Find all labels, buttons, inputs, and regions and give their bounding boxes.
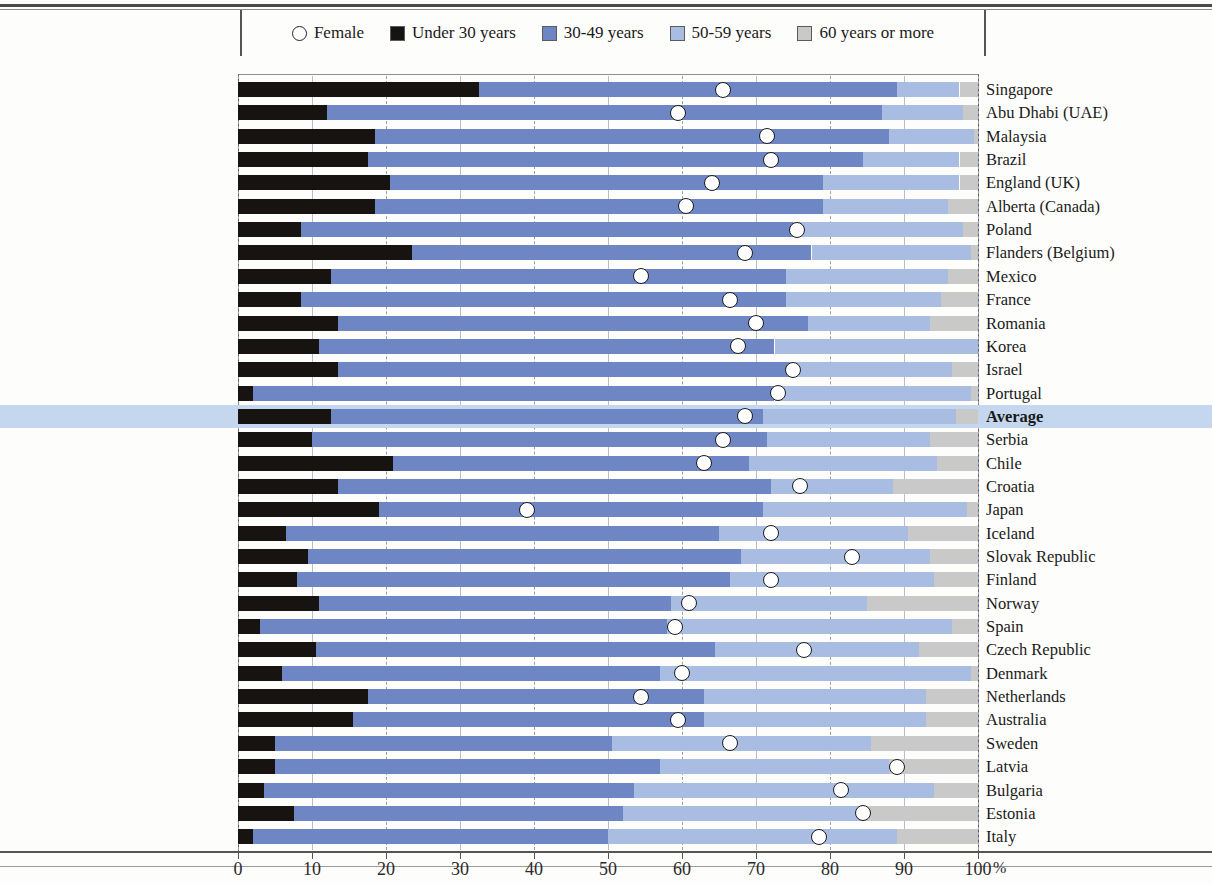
bar-segment-a60 bbox=[952, 619, 978, 634]
bar-segment-under30 bbox=[238, 339, 319, 354]
bar-segment-a3049 bbox=[253, 829, 608, 844]
row-label-right: Norway bbox=[986, 592, 1212, 615]
row-label-right: Croatia bbox=[986, 475, 1212, 498]
row-label-right: Finland bbox=[986, 568, 1212, 591]
bar-segment-under30 bbox=[238, 759, 275, 774]
row-label-right: Israel bbox=[986, 358, 1212, 381]
bar-segment-a5059 bbox=[775, 339, 979, 354]
chart-row: RomaniaRomania bbox=[238, 312, 978, 335]
female-marker bbox=[704, 175, 720, 191]
axis-tick-label: 0 bbox=[208, 859, 268, 880]
bar-segment-a5059 bbox=[612, 736, 871, 751]
female-marker bbox=[674, 665, 690, 681]
bar-segment-a5059 bbox=[812, 245, 971, 260]
female-marker bbox=[519, 502, 535, 518]
stacked-bar bbox=[238, 596, 978, 611]
chart-row: BrazilBrazil bbox=[238, 148, 978, 171]
bar-segment-a5059 bbox=[793, 222, 963, 237]
x-axis-line bbox=[0, 851, 1212, 853]
row-label-right: Abu Dhabi (UAE) bbox=[986, 101, 1212, 124]
bar-segment-a5059 bbox=[660, 666, 971, 681]
legend-item-60-years-or-more: 60 years or more bbox=[797, 23, 934, 43]
bar-segment-under30 bbox=[238, 292, 301, 307]
chart-row: IcelandIceland bbox=[238, 522, 978, 545]
bar-segment-a60 bbox=[934, 783, 978, 798]
bar-segment-a60 bbox=[960, 152, 979, 167]
row-label-right: Mexico bbox=[986, 265, 1212, 288]
chart-legend: FemaleUnder 30 years30-49 years50-59 yea… bbox=[240, 10, 986, 56]
bar-segment-under30 bbox=[238, 245, 412, 260]
female-marker bbox=[796, 642, 812, 658]
row-label-right: Serbia bbox=[986, 428, 1212, 451]
bar-segment-under30 bbox=[238, 806, 294, 821]
stacked-bar bbox=[238, 222, 978, 237]
bar-segment-under30 bbox=[238, 829, 253, 844]
stacked-bar bbox=[238, 502, 978, 517]
bar-segment-a5059 bbox=[771, 479, 893, 494]
female-marker bbox=[722, 292, 738, 308]
axis-tick-label: 90 bbox=[874, 859, 934, 880]
stacked-bar bbox=[238, 689, 978, 704]
bar-segment-a3049 bbox=[368, 689, 705, 704]
axis-tick-60 bbox=[682, 851, 683, 859]
stacked-bar bbox=[238, 269, 978, 284]
bar-segment-a3049 bbox=[260, 619, 667, 634]
bar-segment-under30 bbox=[238, 386, 253, 401]
bar-segment-a3049 bbox=[379, 502, 764, 517]
top-rule-thick bbox=[0, 4, 1212, 7]
stacked-bar bbox=[238, 549, 978, 564]
chart-plot-area: SingaporeSingaporeAbu Dhabi (UAE)Abu Dha… bbox=[238, 76, 978, 850]
bar-segment-under30 bbox=[238, 409, 331, 424]
bar-segment-a5059 bbox=[767, 432, 930, 447]
bar-segment-a3049 bbox=[331, 409, 764, 424]
axis-tick-label: 20 bbox=[356, 859, 416, 880]
female-marker bbox=[670, 712, 686, 728]
bar-segment-a60 bbox=[930, 316, 978, 331]
bar-segment-a5059 bbox=[623, 806, 864, 821]
row-label-right: Latvia bbox=[986, 755, 1212, 778]
row-label-right: Average bbox=[986, 405, 1212, 428]
bar-segment-a60 bbox=[867, 596, 978, 611]
legend-swatch-icon bbox=[390, 26, 405, 41]
bar-segment-a60 bbox=[941, 292, 978, 307]
bar-segment-a3049 bbox=[338, 316, 808, 331]
bar-segment-under30 bbox=[238, 316, 338, 331]
axis-tick-label: 70 bbox=[726, 859, 786, 880]
row-label-right: Poland bbox=[986, 218, 1212, 241]
bar-segment-a5059 bbox=[882, 105, 963, 120]
axis-tick-label: 80 bbox=[800, 859, 860, 880]
chart-row: ChileChile bbox=[238, 452, 978, 475]
axis-tick-80 bbox=[830, 851, 831, 859]
bar-segment-a3049 bbox=[253, 386, 775, 401]
bar-segment-a3049 bbox=[282, 666, 659, 681]
stacked-bar bbox=[238, 316, 978, 331]
bar-segment-a5059 bbox=[763, 502, 967, 517]
bar-segment-a60 bbox=[930, 549, 978, 564]
bar-segment-a60 bbox=[971, 666, 978, 681]
bar-segment-under30 bbox=[238, 175, 390, 190]
stacked-bar bbox=[238, 526, 978, 541]
female-marker bbox=[833, 782, 849, 798]
chart-row: IsraelIsrael bbox=[238, 358, 978, 381]
bar-segment-under30 bbox=[238, 269, 331, 284]
row-label-right: Malaysia bbox=[986, 125, 1212, 148]
gridline-100 bbox=[978, 76, 979, 850]
female-marker bbox=[670, 105, 686, 121]
bar-segment-a60 bbox=[963, 222, 978, 237]
chart-row: NetherlandsNetherlands bbox=[238, 685, 978, 708]
stacked-bar bbox=[238, 386, 978, 401]
bar-segment-a3049 bbox=[390, 175, 823, 190]
chart-row: NorwayNorway bbox=[238, 592, 978, 615]
bar-segment-a60 bbox=[908, 526, 978, 541]
bar-segment-a60 bbox=[974, 129, 978, 144]
bar-segment-a60 bbox=[971, 386, 978, 401]
bar-segment-a60 bbox=[971, 245, 978, 260]
bar-segment-under30 bbox=[238, 526, 286, 541]
bar-segment-a3049 bbox=[301, 222, 793, 237]
bar-segment-a60 bbox=[893, 479, 978, 494]
bar-segment-a3049 bbox=[479, 82, 897, 97]
bar-segment-a60 bbox=[948, 269, 978, 284]
bar-segment-under30 bbox=[238, 479, 338, 494]
stacked-bar bbox=[238, 666, 978, 681]
bar-segment-under30 bbox=[238, 362, 338, 377]
